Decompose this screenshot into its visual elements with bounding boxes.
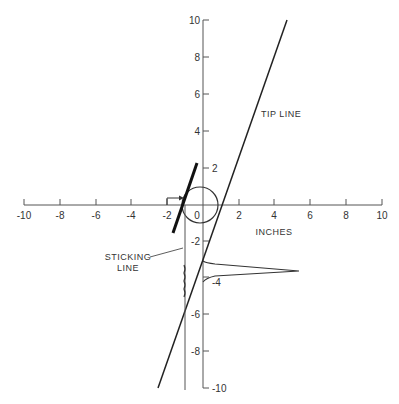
- y-tick-label: -6: [191, 309, 200, 320]
- tip-line-label: TIP LINE: [261, 109, 301, 119]
- arrow-path: [167, 198, 181, 205]
- y-tick-label: -4: [212, 277, 221, 288]
- origin-label: 0: [194, 210, 200, 221]
- y-tick-label: 10: [189, 15, 201, 26]
- x-tick-label: 2: [236, 210, 242, 221]
- sticking-line-label-1: STICKING: [105, 252, 152, 262]
- tip-line: [158, 20, 287, 388]
- x-tick-label: -4: [127, 210, 136, 221]
- x-tick-label: -2: [163, 210, 172, 221]
- x-tick-label: 6: [307, 210, 313, 221]
- x-tick-label: -8: [56, 210, 65, 221]
- x-tick-label: -6: [92, 210, 101, 221]
- y-tick-label: -8: [191, 346, 200, 357]
- y-tick-label: -2: [191, 236, 200, 247]
- y-tick-label: 8: [194, 52, 200, 63]
- x-axis: -10 -8 -6 -4 -2 0 2 4 6 8 10 INCHES: [17, 199, 388, 237]
- y-tick-label: 6: [194, 89, 200, 100]
- y-tick-label: 2: [212, 163, 218, 174]
- x-tick-label: 8: [343, 210, 349, 221]
- x-axis-label: INCHES: [255, 227, 292, 237]
- x-tick-label: 4: [271, 210, 277, 221]
- y-tick-label: 4: [194, 126, 200, 137]
- sticking-leader-line: [150, 248, 183, 257]
- y-tick-label: -10: [212, 383, 227, 394]
- sticking-line-label-2: LINE: [117, 263, 139, 273]
- x-tick-label: 10: [376, 210, 388, 221]
- x-tick-label: -10: [17, 210, 32, 221]
- diagram-canvas: -10 -8 -6 -4 -2 0 2 4 6 8 10 INCHES 10 8…: [0, 0, 399, 404]
